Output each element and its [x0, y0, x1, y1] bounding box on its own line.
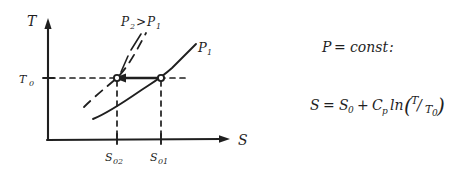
- isobar-p1-curve: [93, 44, 196, 119]
- eq1-equals: =: [334, 39, 346, 55]
- eq2-coefficient-subscript: p: [382, 106, 388, 116]
- equation-p-const: P = const :: [321, 39, 394, 55]
- annotation-p2: P: [120, 15, 130, 29]
- eq2-lhs: S: [310, 97, 320, 113]
- equation-entropy: S = S 0 + C p ln ( T / T 0 ): [310, 94, 445, 118]
- s02-label-subscript: 02: [113, 157, 123, 166]
- ts-diagram-figure: T S T 0 S 02 S 01 P 1 P 2 > P 1: [0, 0, 453, 178]
- annotation-leader-line-upper: [131, 34, 141, 50]
- state-point-1-marker: [158, 75, 164, 81]
- p1-curve-label-subscript: 1: [207, 48, 212, 57]
- eq1-lhs: P: [321, 39, 332, 55]
- annotation-p2-subscript: 2: [129, 22, 135, 31]
- s01-label-subscript: 01: [158, 157, 168, 166]
- eq1-colon: :: [389, 39, 394, 55]
- s01-tick-label-group: S 01: [150, 151, 168, 166]
- s02-label: S: [105, 151, 113, 164]
- x-axis-label: S: [238, 132, 248, 148]
- eq2-plus: +: [357, 97, 369, 113]
- annotation-greater-than: >: [136, 15, 146, 29]
- eq2-term1-subscript: 0: [348, 105, 354, 115]
- t0-label-subscript: 0: [29, 79, 34, 88]
- p1-curve-label-group: P 1: [197, 40, 212, 57]
- axes-group: [44, 18, 230, 143]
- eq2-log-function: ln: [390, 97, 404, 113]
- state-point-2-marker: [114, 75, 120, 81]
- t0-label: T: [19, 73, 28, 86]
- isobar-p2-curve: [84, 33, 146, 107]
- p1-curve-label: P: [197, 40, 207, 55]
- eq1-rhs: const: [350, 39, 388, 55]
- y-axis-arrowhead: [44, 18, 51, 29]
- eq2-fraction-slash: /: [415, 97, 423, 113]
- eq2-equals: =: [323, 97, 335, 113]
- x-axis-line: [47, 139, 222, 140]
- eq2-paren-close: ): [436, 94, 445, 118]
- s02-tick-label-group: S 02: [105, 151, 123, 166]
- annotation-p1-subscript: 1: [156, 22, 161, 31]
- s01-label: S: [150, 151, 158, 164]
- y-axis-label: T: [27, 13, 38, 29]
- x-axis-arrowhead: [219, 135, 230, 142]
- annotation-p1: P: [146, 15, 156, 29]
